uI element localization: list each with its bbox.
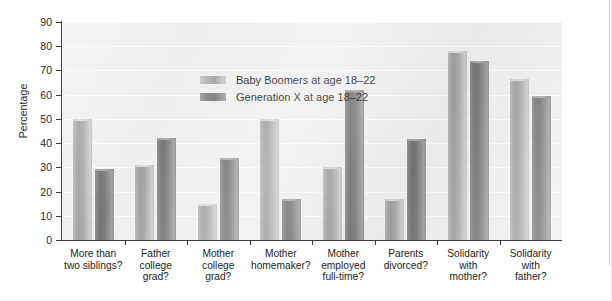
bar-generation-x xyxy=(345,90,364,240)
y-tick-label-wrap: 0 xyxy=(24,240,52,241)
category-label-line: grad? xyxy=(181,271,256,283)
legend-label-baby-boomers: Baby Boomers at age 18–22 xyxy=(236,74,375,86)
y-tick-label: 90 xyxy=(28,17,52,28)
bar-baby-boomers xyxy=(448,51,467,240)
bar-body xyxy=(385,199,404,240)
y-tick-label-wrap: 60 xyxy=(24,95,52,96)
y-axis-line xyxy=(61,21,62,241)
bar-generation-x xyxy=(220,158,239,240)
bar-top-cap xyxy=(407,139,426,141)
bar-generation-x xyxy=(470,61,489,240)
bar-body xyxy=(407,139,426,240)
bar-body xyxy=(470,61,489,240)
bar-body xyxy=(532,96,551,240)
y-tick-label: 40 xyxy=(28,138,52,149)
bar-baby-boomers xyxy=(385,199,404,240)
bar-baby-boomers xyxy=(135,165,154,240)
y-tick-label: 30 xyxy=(28,162,52,173)
bar-body xyxy=(345,90,364,240)
x-tick-mark xyxy=(250,241,251,245)
bar-top-cap xyxy=(510,79,529,81)
bar-generation-x xyxy=(95,169,114,240)
y-tick-mark xyxy=(56,119,61,120)
category-label-line: father? xyxy=(494,271,569,283)
y-tick-label-wrap: 80 xyxy=(24,46,52,47)
y-tick-mark xyxy=(56,216,61,217)
bar-top-cap xyxy=(282,199,301,201)
bar-generation-x xyxy=(407,139,426,240)
y-tick-label: 70 xyxy=(28,65,52,76)
chart-legend: Baby Boomers at age 18–22 Generation X a… xyxy=(200,71,375,105)
legend-item-baby-boomers: Baby Boomers at age 18–22 xyxy=(200,71,375,88)
bar-top-cap xyxy=(220,158,239,160)
y-tick-label: 20 xyxy=(28,187,52,198)
bar-body xyxy=(198,204,217,240)
bar-body xyxy=(95,169,114,240)
bar-top-cap xyxy=(95,169,114,171)
category-label-line: with xyxy=(494,260,569,272)
bar-baby-boomers xyxy=(260,119,279,240)
legend-item-generation-x: Generation X at age 18–22 xyxy=(200,88,375,105)
y-tick-label-wrap: 30 xyxy=(24,167,52,168)
bar-top-cap xyxy=(385,199,404,201)
bar-body xyxy=(448,51,467,240)
x-tick-mark xyxy=(125,241,126,245)
y-tick-label-wrap: 20 xyxy=(24,192,52,193)
bar-top-cap xyxy=(260,119,279,121)
bar-generation-x xyxy=(282,199,301,240)
bar-body xyxy=(282,199,301,240)
plot-area: Baby Boomers at age 18–22 Generation X a… xyxy=(62,22,562,240)
bar-top-cap xyxy=(135,165,154,167)
bar-body xyxy=(135,165,154,240)
x-tick-mark xyxy=(187,241,188,245)
y-tick-label-wrap: 70 xyxy=(24,70,52,71)
gridline xyxy=(62,46,562,47)
y-tick-mark xyxy=(56,46,61,47)
bar-body xyxy=(510,79,529,240)
y-tick-mark xyxy=(56,167,61,168)
x-tick-mark xyxy=(437,241,438,245)
bar-body xyxy=(220,158,239,240)
legend-swatch-icon-baby-boomers xyxy=(200,76,226,84)
gridline xyxy=(62,22,562,23)
category-label-line: Solidarity xyxy=(494,248,569,260)
bar-baby-boomers xyxy=(73,119,92,240)
bar-top-cap xyxy=(470,61,489,63)
bar-chart-figure: Percentage Baby Boomers at age 18–22 Gen… xyxy=(0,0,612,301)
bar-baby-boomers xyxy=(198,204,217,240)
category-label-line: full-time? xyxy=(306,271,381,283)
bar-body xyxy=(157,138,176,240)
legend-label-generation-x: Generation X at age 18–22 xyxy=(236,91,368,103)
bar-top-cap xyxy=(157,138,176,140)
bar-top-cap xyxy=(532,96,551,98)
y-tick-label-wrap: 40 xyxy=(24,143,52,144)
y-tick-label: 80 xyxy=(28,41,52,52)
bar-body xyxy=(323,167,342,240)
page-edge-artifact xyxy=(609,0,610,265)
y-tick-mark xyxy=(56,70,61,71)
y-tick-mark xyxy=(56,22,61,23)
x-tick-mark xyxy=(375,241,376,245)
y-tick-label-wrap: 90 xyxy=(24,22,52,23)
y-tick-mark xyxy=(56,95,61,96)
legend-swatch-icon-generation-x xyxy=(200,93,226,101)
y-tick-label: 0 xyxy=(28,235,52,246)
y-tick-label-wrap: 50 xyxy=(24,119,52,120)
bar-top-cap xyxy=(73,119,92,121)
y-tick-label: 50 xyxy=(28,114,52,125)
bar-body xyxy=(260,119,279,240)
bar-top-cap xyxy=(448,51,467,53)
y-tick-mark xyxy=(56,192,61,193)
bar-generation-x xyxy=(157,138,176,240)
x-tick-mark xyxy=(312,241,313,245)
bar-top-cap xyxy=(198,204,217,206)
bar-baby-boomers xyxy=(510,79,529,240)
bar-baby-boomers xyxy=(323,167,342,240)
y-tick-label-wrap: 10 xyxy=(24,216,52,217)
x-axis-category-label: Solidaritywithfather? xyxy=(494,248,569,283)
y-tick-mark xyxy=(56,143,61,144)
y-tick-label: 60 xyxy=(28,90,52,101)
y-tick-label: 10 xyxy=(28,211,52,222)
x-tick-mark xyxy=(500,241,501,245)
bar-generation-x xyxy=(532,96,551,240)
